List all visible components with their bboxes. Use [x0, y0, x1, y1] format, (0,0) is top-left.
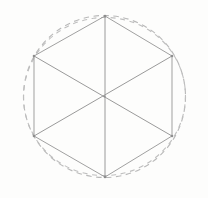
vertex-marker-bottom	[104, 176, 107, 179]
vertex-marker-bottom-left	[33, 135, 36, 138]
vertex-marker-top-right	[171, 55, 174, 58]
figure-canvas	[0, 0, 208, 198]
center-point-marker	[103, 95, 105, 97]
vertex-marker-top-left	[33, 55, 36, 58]
vertex-marker-bottom-right	[171, 135, 174, 138]
vertex-marker-top	[104, 15, 107, 18]
figure-background	[0, 0, 208, 198]
hexagon-circle-figure	[0, 0, 208, 198]
